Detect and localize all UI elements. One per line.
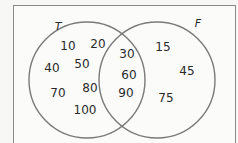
intersection-value: 30 bbox=[119, 48, 134, 60]
t-only-value: 70 bbox=[50, 87, 65, 99]
intersection-value: 60 bbox=[121, 69, 136, 81]
set-f-label: F bbox=[195, 18, 201, 29]
t-only-value: 100 bbox=[74, 104, 97, 116]
t-only-value: 20 bbox=[90, 38, 105, 50]
venn-diagram bbox=[0, 0, 238, 143]
f-only-value: 15 bbox=[155, 41, 170, 53]
t-only-value: 40 bbox=[44, 62, 59, 74]
intersection-value: 90 bbox=[118, 87, 133, 99]
t-only-value: 50 bbox=[74, 58, 89, 70]
set-t-label: T bbox=[55, 21, 62, 32]
f-only-value: 75 bbox=[158, 92, 173, 104]
t-only-value: 80 bbox=[82, 82, 97, 94]
t-only-value: 10 bbox=[60, 40, 75, 52]
f-only-value: 45 bbox=[179, 65, 194, 77]
